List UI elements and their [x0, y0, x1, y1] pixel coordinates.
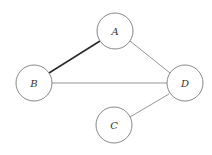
edges — [49, 41, 170, 117]
edge-a-b — [49, 41, 100, 73]
node-d-label: D — [180, 78, 189, 89]
node-c: C — [96, 107, 132, 143]
node-b: B — [16, 65, 52, 101]
node-c-label: C — [110, 120, 118, 131]
node-a: A — [97, 13, 133, 49]
node-a-label: A — [110, 26, 118, 37]
edge-c-d — [130, 94, 169, 117]
node-b-label: B — [29, 78, 37, 89]
graph-diagram: A B D C — [0, 0, 212, 155]
edge-a-d — [130, 41, 170, 73]
node-d: D — [167, 65, 203, 101]
nodes: A B D C — [16, 13, 203, 143]
